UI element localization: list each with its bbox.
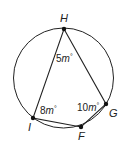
circle [14,28,114,128]
point-G [104,102,108,106]
angle-G-label: 10m° [77,102,99,113]
label-I: I [28,121,31,133]
inscribed-quadrilateral-diagram: H G F I 5m° 10m° 8m° [0,0,125,152]
label-H: H [60,12,68,24]
point-H [62,27,66,31]
angle-I-label: 8m° [40,105,57,116]
point-F [79,125,83,129]
angle-H-label: 5m° [56,53,73,64]
label-F: F [78,130,86,142]
label-G: G [109,107,118,119]
point-I [31,116,35,120]
